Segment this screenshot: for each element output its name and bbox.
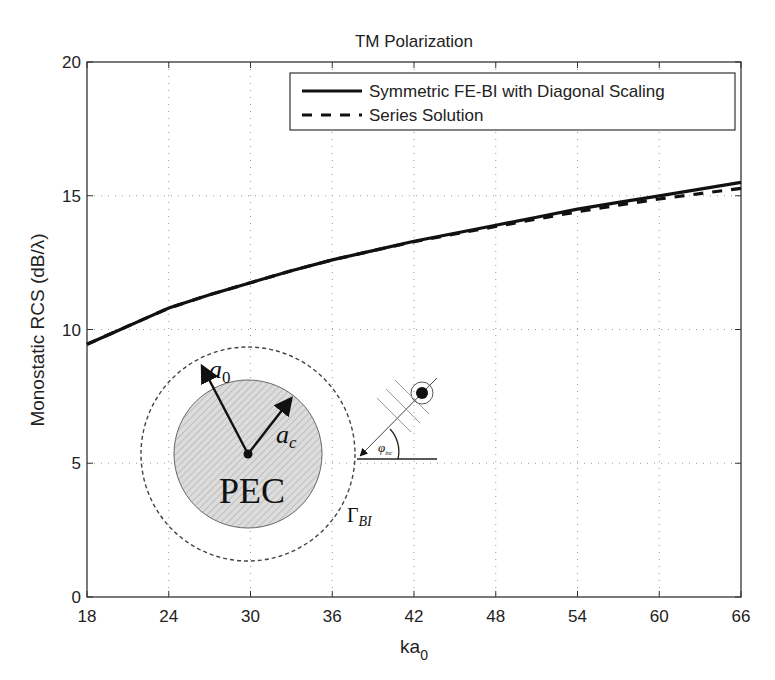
x-tick-label: 48: [486, 607, 505, 626]
y-tick-label: 5: [72, 454, 81, 473]
rcs-chart: TM Polarization 182430364248546066 05101…: [0, 0, 775, 680]
x-tick-label: 42: [405, 607, 424, 626]
phi-inc-label: φinc: [378, 440, 393, 456]
fe-bi-line: [87, 182, 741, 344]
legend-label-series: Series Solution: [369, 106, 483, 125]
gamma-bi-label: ΓBI: [347, 504, 373, 529]
x-tick-label: 18: [78, 607, 97, 626]
y-tick-label: 0: [72, 588, 81, 607]
pec-label: PEC: [219, 471, 285, 511]
x-tick-label: 30: [241, 607, 260, 626]
x-tick-label: 66: [732, 607, 751, 626]
a0-label: a0: [209, 355, 231, 387]
x-tick-label: 36: [323, 607, 342, 626]
chart-title: TM Polarization: [355, 32, 473, 51]
series-solution-line: [87, 188, 741, 344]
y-axis-label: Monostatic RCS (dB/λ): [27, 233, 48, 426]
x-tick-labels: 182430364248546066: [78, 607, 751, 626]
y-tick-label: 10: [62, 321, 81, 340]
grid-lines: [87, 62, 741, 597]
x-tick-label: 24: [159, 607, 178, 626]
inset-diagram: PEC a0 ac ΓBI φinc: [141, 347, 437, 561]
legend-label-fe-bi: Symmetric FE-BI with Diagonal Scaling: [369, 82, 665, 101]
center-dot: [244, 450, 253, 459]
x-tick-label: 54: [568, 607, 587, 626]
incident-wave-icon: φinc: [357, 378, 437, 459]
legend: Symmetric FE-BI with Diagonal Scaling Se…: [290, 73, 735, 130]
data-series: [87, 182, 741, 344]
y-tick-label: 20: [62, 53, 81, 72]
y-tick-labels: 05101520: [62, 53, 81, 607]
x-tick-label: 60: [650, 607, 669, 626]
x-axis-label: ka0: [400, 636, 428, 663]
y-tick-label: 15: [62, 187, 81, 206]
